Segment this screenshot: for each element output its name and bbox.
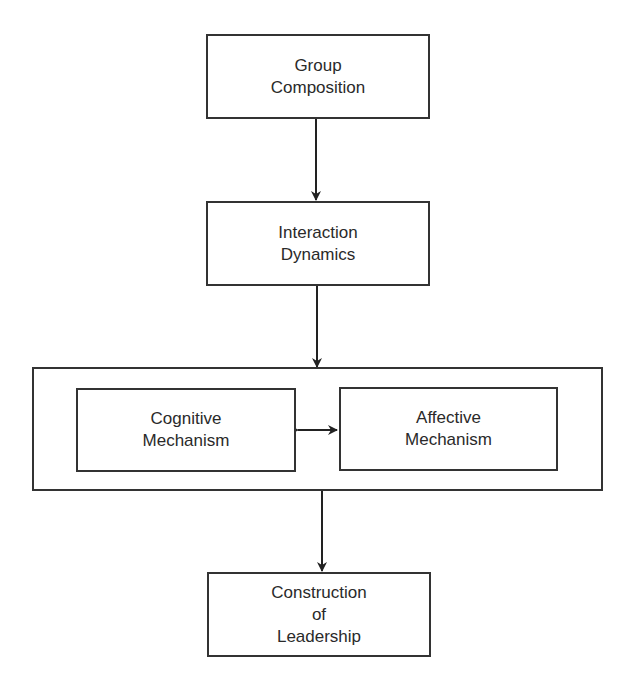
node-interaction-dynamics: Interaction Dynamics bbox=[206, 201, 430, 286]
node-group-composition: Group Composition bbox=[206, 34, 430, 119]
node-affective-mechanism: Affective Mechanism bbox=[339, 387, 558, 471]
node-label-line: Construction bbox=[271, 582, 366, 604]
node-label-line: Cognitive bbox=[143, 408, 230, 430]
node-label-line: Mechanism bbox=[143, 430, 230, 452]
node-label-line: Interaction bbox=[278, 222, 357, 244]
node-label-line: Affective bbox=[405, 407, 492, 429]
node-label-line: Leadership bbox=[271, 626, 366, 648]
node-label-line: Dynamics bbox=[278, 244, 357, 266]
node-label-line: Mechanism bbox=[405, 429, 492, 451]
node-construction-of-leadership: Construction of Leadership bbox=[207, 572, 431, 657]
node-label-line: Group bbox=[271, 55, 366, 77]
node-label-line: Composition bbox=[271, 77, 366, 99]
node-label-line: of bbox=[271, 604, 366, 626]
node-cognitive-mechanism: Cognitive Mechanism bbox=[76, 388, 296, 472]
